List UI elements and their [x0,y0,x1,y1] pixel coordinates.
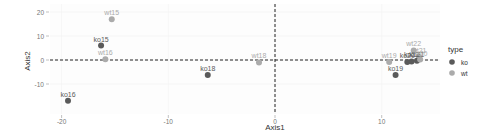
data-point-wt16 [102,56,108,62]
legend-key-wt [449,70,455,76]
data-point-ko16 [65,98,71,104]
point-label: wt19 [381,52,397,59]
point-label: wt15 [103,9,119,16]
legend-key-ko [449,59,455,65]
x-tick-label: 10 [378,118,386,125]
point-label: ko16 [60,91,75,98]
y-tick-label: 10 [37,33,45,40]
data-point-ko18 [205,72,211,78]
x-tick-label: -10 [164,118,174,125]
scatter-chart: 20100-10 -20-10010 wt15ko15wt16ko16ko18w… [0,0,496,134]
legend-label: wt [460,70,468,77]
y-tick-label: -10 [35,81,45,88]
data-point-ko15 [98,43,104,49]
point-label: ko19 [388,65,403,72]
y-tick-label: 20 [37,9,45,16]
data-point-wt15 [109,16,115,22]
data-point-wt18 [256,59,262,65]
point-label: ko20 [400,52,415,59]
x-tick-label: -20 [57,118,67,125]
y-axis-label: Axis2 [23,51,32,71]
data-point-ko19 [393,72,399,78]
point-label: wt18 [251,52,267,59]
legend: type kowt [448,45,468,77]
point-label: ko15 [93,36,108,43]
point-label: wt16 [97,49,113,56]
chart-canvas: 20100-10 -20-10010 wt15ko15wt16ko16ko18w… [0,0,496,134]
y-axis-ticks: 20100-10 [35,9,49,88]
data-point-ko20 [404,59,410,65]
x-axis-ticks: -20-10010 [57,115,386,125]
y-tick-label: 0 [40,57,44,64]
legend-title: type [448,45,464,54]
x-axis-label: Axis1 [265,123,285,132]
point-label: ko18 [200,65,215,72]
data-point-wt19 [386,59,392,65]
legend-label: ko [461,59,468,66]
